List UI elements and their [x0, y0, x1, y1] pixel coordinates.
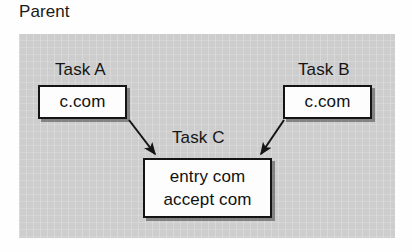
parent-label: Parent	[19, 2, 70, 22]
task-b-text-line-1: c.com	[305, 92, 351, 112]
task-c-text-line-2: accept com	[164, 188, 252, 211]
task-c-label: Task C	[172, 128, 225, 148]
task-c-text-line-1: entry com	[170, 165, 246, 188]
task-b-label: Task B	[298, 60, 350, 80]
task-b-box: c.com	[283, 85, 372, 119]
task-c-box: entry com accept com	[143, 158, 272, 218]
task-a-box: c.com	[38, 85, 127, 119]
task-a-text-line-1: c.com	[60, 92, 106, 112]
figure-root: Parent Task A Task B Task C c.com c.com …	[0, 0, 412, 252]
task-a-label: Task A	[55, 60, 106, 80]
